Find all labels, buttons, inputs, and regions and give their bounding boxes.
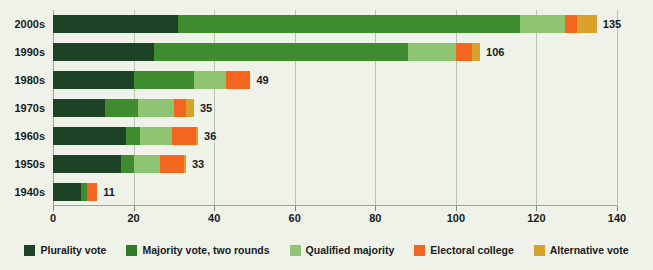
legend-label: Alternative vote [550, 244, 629, 256]
x-tick-label-80: 80 [369, 212, 381, 224]
x-tick-120 [536, 206, 537, 211]
gridline-100 [456, 10, 457, 206]
bar-1950s [53, 155, 186, 173]
category-label-1940s: 1940s [14, 183, 45, 201]
x-tick-140 [617, 206, 618, 211]
category-label-1980s: 1980s [14, 71, 45, 89]
bar-segment-1980s-electoral-college [226, 71, 250, 89]
bar-1970s [53, 99, 194, 117]
bar-segment-1970s-majority-vote-two-rounds [105, 99, 137, 117]
bar-total-1990s: 106 [486, 43, 504, 61]
bar-segment-2000s-majority-vote-two-rounds [178, 15, 520, 33]
bar-segment-2000s-qualified-majority [520, 15, 564, 33]
bar-2000s [53, 15, 597, 33]
bar-segment-1990s-alternative-vote [472, 43, 480, 61]
bar-segment-1960s-qualified-majority [140, 127, 172, 145]
x-tick-100 [456, 206, 457, 211]
x-tick-label-140: 140 [608, 212, 626, 224]
bar-segment-1940s-electoral-college [87, 183, 97, 201]
bar-total-1940s: 11 [103, 183, 115, 201]
bar-segment-1950s-qualified-majority [134, 155, 160, 173]
x-tick-label-120: 120 [527, 212, 545, 224]
bar-segment-1950s-plurality-vote [53, 155, 121, 173]
bar-segment-1940s-plurality-vote [53, 183, 81, 201]
bar-segment-1990s-plurality-vote [53, 43, 154, 61]
bar-segment-2000s-alternative-vote [577, 15, 597, 33]
legend-label: Majority vote, two rounds [142, 244, 269, 256]
legend-item-qualified-majority[interactable]: Qualified majority [290, 244, 395, 256]
bar-segment-1960s-plurality-vote [53, 127, 126, 145]
legend-item-majority-vote-two-rounds[interactable]: Majority vote, two rounds [126, 244, 269, 256]
bar-total-1960s: 36 [204, 127, 216, 145]
legend-swatch-icon [290, 245, 301, 256]
legend-label: Qualified majority [306, 244, 395, 256]
bar-segment-1970s-plurality-vote [53, 99, 105, 117]
legend-swatch-icon [24, 245, 35, 256]
x-tick-label-40: 40 [208, 212, 220, 224]
legend-swatch-icon [414, 245, 425, 256]
bar-1960s [53, 127, 198, 145]
bar-segment-1950s-majority-vote-two-rounds [121, 155, 133, 173]
gridline-140 [617, 10, 618, 206]
x-tick-80 [375, 206, 376, 211]
bar-1990s [53, 43, 480, 61]
bar-segment-1970s-electoral-college [174, 99, 186, 117]
bar-1940s [53, 183, 97, 201]
bar-total-1950s: 33 [192, 155, 204, 173]
bar-segment-1950s-electoral-college [160, 155, 184, 173]
bar-segment-1990s-electoral-college [456, 43, 472, 61]
bar-segment-1950s-alternative-vote [184, 155, 186, 173]
x-tick-label-60: 60 [289, 212, 301, 224]
category-label-1970s: 1970s [14, 99, 45, 117]
bar-segment-2000s-electoral-college [565, 15, 577, 33]
value-axis: 020406080100120140 [53, 206, 617, 232]
bar-total-1970s: 35 [200, 99, 212, 117]
bar-segment-1980s-majority-vote-two-rounds [134, 71, 194, 89]
bar-segment-1960s-alternative-vote [196, 127, 198, 145]
gridline-60 [295, 10, 296, 206]
stacked-bar-chart: 2000s1990s1980s1970s1960s1950s1940s 1351… [0, 0, 653, 270]
bar-segment-1960s-majority-vote-two-rounds [126, 127, 140, 145]
category-label-2000s: 2000s [14, 15, 45, 33]
bar-segment-1970s-alternative-vote [186, 99, 194, 117]
bar-segment-2000s-plurality-vote [53, 15, 178, 33]
category-label-1960s: 1960s [14, 127, 45, 145]
bar-segment-1980s-qualified-majority [194, 71, 226, 89]
bar-total-2000s: 135 [603, 15, 621, 33]
bar-segment-1960s-electoral-college [172, 127, 196, 145]
bar-segment-1970s-qualified-majority [138, 99, 174, 117]
category-label-1990s: 1990s [14, 43, 45, 61]
bar-segment-1990s-majority-vote-two-rounds [154, 43, 408, 61]
x-tick-20 [134, 206, 135, 211]
x-tick-60 [295, 206, 296, 211]
category-label-1950s: 1950s [14, 155, 45, 173]
gridline-80 [375, 10, 376, 206]
legend-item-electoral-college[interactable]: Electoral college [414, 244, 513, 256]
legend-label: Plurality vote [40, 244, 106, 256]
chart-legend: Plurality voteMajority vote, two roundsQ… [0, 240, 653, 260]
x-tick-0 [53, 206, 54, 211]
bar-1980s [53, 71, 250, 89]
legend-label: Electoral college [430, 244, 513, 256]
x-tick-label-100: 100 [447, 212, 465, 224]
category-axis-labels: 2000s1990s1980s1970s1960s1950s1940s [0, 10, 53, 206]
gridline-40 [214, 10, 215, 206]
legend-item-plurality-vote[interactable]: Plurality vote [24, 244, 106, 256]
bar-segment-1980s-plurality-vote [53, 71, 134, 89]
bar-segment-1990s-qualified-majority [408, 43, 456, 61]
legend-swatch-icon [126, 245, 137, 256]
legend-item-alternative-vote[interactable]: Alternative vote [534, 244, 629, 256]
plot-area: 1351064935363311 [53, 10, 617, 206]
x-tick-40 [214, 206, 215, 211]
bar-total-1980s: 49 [256, 71, 268, 89]
x-tick-label-0: 0 [50, 212, 56, 224]
legend-swatch-icon [534, 245, 545, 256]
x-tick-label-20: 20 [127, 212, 139, 224]
gridline-120 [536, 10, 537, 206]
